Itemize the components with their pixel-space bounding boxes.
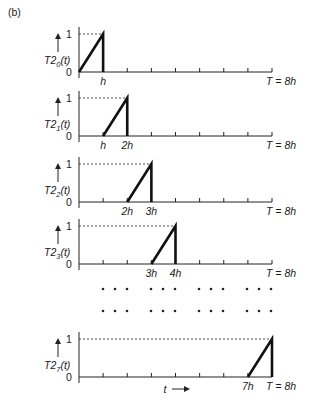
y-label-one: 1 <box>66 158 72 170</box>
ramp-curve <box>127 164 151 202</box>
ellipsis-dot <box>162 288 165 291</box>
up-arrow-head-icon <box>55 33 61 39</box>
end-label-T-8h: T = 8h <box>266 267 296 279</box>
ellipsis-dot <box>102 288 105 291</box>
ellipsis-dot <box>162 310 165 313</box>
ellipsis-dot <box>174 310 177 313</box>
ellipsis-dot <box>258 288 261 291</box>
ramp-curve <box>248 339 272 377</box>
ellipsis-dot <box>246 310 249 313</box>
panel-label: (b) <box>8 6 21 18</box>
ellipsis-dot <box>210 288 213 291</box>
ellipsis-dot <box>198 288 201 291</box>
x-tick-label: 4h <box>170 267 182 279</box>
x-tick-label: 2h <box>120 139 133 151</box>
ellipsis-dot <box>174 288 177 291</box>
up-arrow-head-icon <box>55 225 61 231</box>
ellipsis-dot <box>150 310 153 313</box>
end-label-T-8h: T = 8h <box>266 205 296 217</box>
ramp-curve <box>79 34 103 72</box>
subplot-7: 10T27(t)7hT = 8h <box>44 332 296 392</box>
y-label-zero: 0 <box>66 371 72 383</box>
ellipsis-dot <box>150 288 153 291</box>
ellipsis-dot <box>246 288 249 291</box>
y-label-zero: 0 <box>66 130 72 142</box>
y-label-one: 1 <box>66 28 72 40</box>
ellipsis-dot <box>198 310 201 313</box>
x-tick-label: 2h <box>120 205 133 217</box>
ramp-curve <box>103 98 127 136</box>
subplot-3: 10T23(t)3h4hT = 8h <box>44 219 296 279</box>
ramp-curve <box>151 226 175 264</box>
x-tick-label: 3h <box>146 205 158 217</box>
subplot-0: 10T20(t)hT = 8h <box>44 27 296 87</box>
y-label-zero: 0 <box>66 196 72 208</box>
x-tick-label: h <box>100 75 106 87</box>
y-label-zero: 0 <box>66 258 72 270</box>
right-arrow-head-icon <box>184 386 190 392</box>
y-label-one: 1 <box>66 220 72 232</box>
ellipsis-dot <box>222 288 225 291</box>
up-arrow-head-icon <box>55 338 61 344</box>
x-tick-label: 3h <box>146 267 158 279</box>
y-label-one: 1 <box>66 92 72 104</box>
ellipsis-dot <box>114 310 117 313</box>
subplot-2: 10T22(t)2h3hT = 8h <box>44 157 296 217</box>
x-tick-label: 7h <box>242 380 254 392</box>
y-label-zero: 0 <box>66 66 72 78</box>
x-tick-label: h <box>100 139 106 151</box>
ellipsis-dot <box>210 310 213 313</box>
end-label-T-8h: T = 8h <box>266 380 296 392</box>
ellipsis-dot <box>102 310 105 313</box>
time-axis-label: t <box>164 383 168 395</box>
ellipsis-dot <box>126 310 129 313</box>
ellipsis-dot <box>270 310 273 313</box>
ellipsis-dot <box>270 288 273 291</box>
ellipsis-dot <box>126 288 129 291</box>
ellipsis-dot <box>222 310 225 313</box>
up-arrow-head-icon <box>55 163 61 169</box>
ellipsis-dot <box>258 310 261 313</box>
subplot-1: 10T21(t)h2hT = 8h <box>44 91 296 151</box>
up-arrow-head-icon <box>55 97 61 103</box>
end-label-T-8h: T = 8h <box>266 75 296 87</box>
y-label-one: 1 <box>66 333 72 345</box>
ellipsis-dot <box>114 288 117 291</box>
end-label-T-8h: T = 8h <box>266 139 296 151</box>
ramp-function-diagram: (b)10T20(t)hT = 8h10T21(t)h2hT = 8h10T22… <box>0 0 320 411</box>
